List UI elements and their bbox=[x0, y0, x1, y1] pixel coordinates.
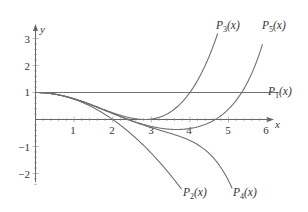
x-axis-arrow-icon bbox=[267, 117, 274, 122]
label-p2: P2(x) bbox=[182, 186, 207, 201]
x-tick-4: 4 bbox=[186, 124, 192, 136]
curve-p4 bbox=[36, 93, 233, 189]
curve-p2 bbox=[36, 93, 182, 190]
x-tick-2: 2 bbox=[109, 124, 115, 136]
label-p1: P1(x) bbox=[267, 85, 292, 100]
y-tick-labels: 3 2 1 −1 −2 bbox=[18, 33, 30, 180]
label-p4: P4(x) bbox=[232, 186, 257, 201]
y-axis-arrow-icon bbox=[33, 24, 38, 31]
y-tick-1: 1 bbox=[25, 86, 31, 98]
y-tick-neg1: −1 bbox=[18, 141, 30, 153]
x-tick-labels: 1 2 3 4 5 6 bbox=[70, 124, 269, 136]
label-p5: P5(x) bbox=[261, 19, 286, 34]
x-tick-6: 6 bbox=[263, 124, 269, 136]
x-tick-5: 5 bbox=[225, 124, 231, 136]
y-axis-label: y bbox=[39, 23, 45, 35]
y-tick-3: 3 bbox=[25, 33, 31, 45]
curve-p3 bbox=[36, 33, 218, 119]
x-tick-1: 1 bbox=[70, 124, 76, 136]
y-tick-2: 2 bbox=[25, 60, 31, 72]
axes bbox=[33, 24, 275, 184]
minor-ticks bbox=[33, 39, 268, 185]
chart-canvas: 1 2 3 4 5 6 3 2 1 −1 −2 x y P1(x) P2(x) … bbox=[0, 0, 308, 212]
label-p3: P3(x) bbox=[215, 19, 240, 34]
x-axis-label: x bbox=[274, 118, 280, 130]
y-tick-neg2: −2 bbox=[18, 168, 30, 180]
curves bbox=[36, 33, 279, 189]
